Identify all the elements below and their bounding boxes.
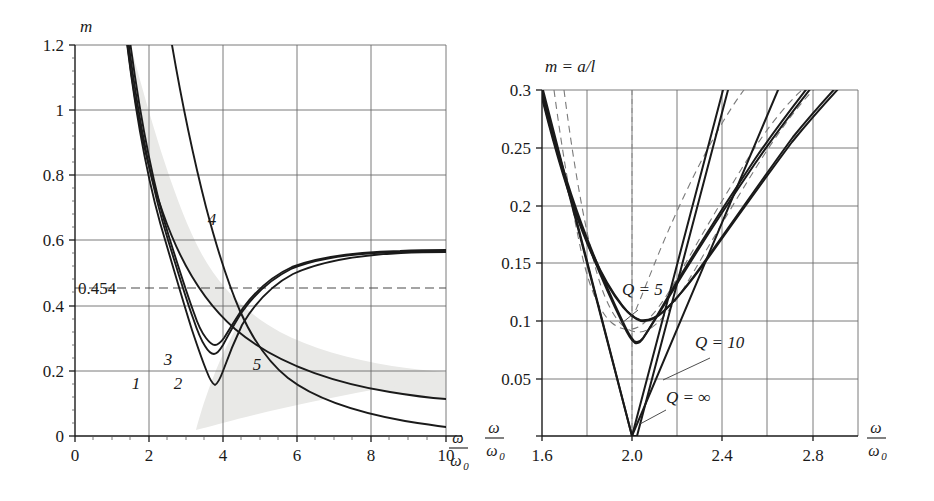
right-solid-curves	[542, 68, 853, 436]
curve-label-4: 4	[208, 210, 217, 229]
q-label-10: Q = 10	[695, 333, 745, 352]
left-ytick-1_2: 1.2	[43, 36, 64, 55]
right-ytick-0_2: 0.2	[510, 197, 531, 216]
curve-label-2: 2	[174, 374, 183, 393]
right-x-axis-label-left: ω ω 0	[485, 419, 505, 462]
right-panel-svg: Q = 5 Q = 10 Q = ∞ 0.3 0.25 0.2 0.15 0.1…	[470, 0, 934, 501]
curve-Q10-a	[542, 74, 822, 342]
right-grid	[542, 90, 858, 436]
right-x-axis-label-left-numerator: ω	[488, 419, 499, 436]
right-x-axis-label-numerator: ω	[870, 419, 881, 436]
right-x-axis-label-left-denominator: ω	[486, 442, 497, 459]
left-y-axis-label: m	[80, 17, 92, 36]
left-xtick-2: 2	[145, 446, 154, 465]
right-x-axis-label-denominator-sub: 0	[881, 450, 887, 462]
dashed-value-label: 0.454	[78, 279, 117, 298]
right-ytick-0_05: 0.05	[501, 370, 531, 389]
left-shaded-regions	[127, 45, 446, 430]
curve-label-3: 3	[163, 350, 173, 369]
left-x-axis-label-numerator: ω	[452, 429, 463, 446]
curve-label-1: 1	[132, 374, 141, 393]
left-ytick-1: 1	[56, 101, 65, 120]
left-xtick-4: 4	[219, 446, 228, 465]
left-panel-svg: 1 2 3 4 5 1.2 1 0.8 0.6 0.4 0.2 0 0.454 …	[0, 0, 470, 501]
left-ytick-0_8: 0.8	[43, 166, 64, 185]
right-xtick-2_4: 2.4	[711, 446, 733, 465]
right-y-axis-label: m = a/l	[545, 57, 595, 76]
right-ytick-0_1: 0.1	[510, 312, 531, 331]
right-xtick-1_6: 1.6	[531, 446, 552, 465]
left-ytick-0_6: 0.6	[43, 231, 64, 250]
q-label-5: Q = 5	[622, 280, 663, 299]
left-xtick-8: 8	[367, 446, 376, 465]
curve-3	[131, 45, 447, 345]
q-label-infinity: Q = ∞	[666, 388, 710, 407]
left-ytick-0: 0	[56, 427, 65, 446]
right-x-axis-label-denominator: ω	[868, 442, 879, 459]
right-x-axis-label-left-denominator-sub: 0	[499, 450, 505, 462]
right-dashed-curves	[554, 84, 818, 332]
right-ytick-0_3: 0.3	[510, 81, 531, 100]
left-ytick-0_2: 0.2	[43, 362, 64, 381]
leader-line-Q10	[663, 358, 710, 380]
right-xtick-2_0: 2.0	[621, 446, 642, 465]
left-panel: 1 2 3 4 5 1.2 1 0.8 0.6 0.4 0.2 0 0.454 …	[0, 0, 470, 501]
right-xtick-2_8: 2.8	[802, 446, 823, 465]
left-xtick-6: 6	[293, 446, 302, 465]
left-xtick-0: 0	[71, 446, 80, 465]
right-panel: Q = 5 Q = 10 Q = ∞ 0.3 0.25 0.2 0.15 0.1…	[470, 0, 934, 501]
right-ytick-0_15: 0.15	[501, 254, 531, 273]
curve-label-5: 5	[253, 355, 262, 374]
left-ytick-0_4: 0.4	[43, 297, 65, 316]
right-ytick-0_25: 0.25	[501, 139, 531, 158]
right-x-axis-label: ω ω 0	[867, 419, 887, 462]
left-x-axis-label-denominator-sub: 0	[463, 460, 469, 472]
shade-region-4-3	[127, 45, 446, 399]
left-x-axis-label-denominator: ω	[450, 452, 461, 469]
figure-root: 1 2 3 4 5 1.2 1 0.8 0.6 0.4 0.2 0 0.454 …	[0, 0, 934, 501]
